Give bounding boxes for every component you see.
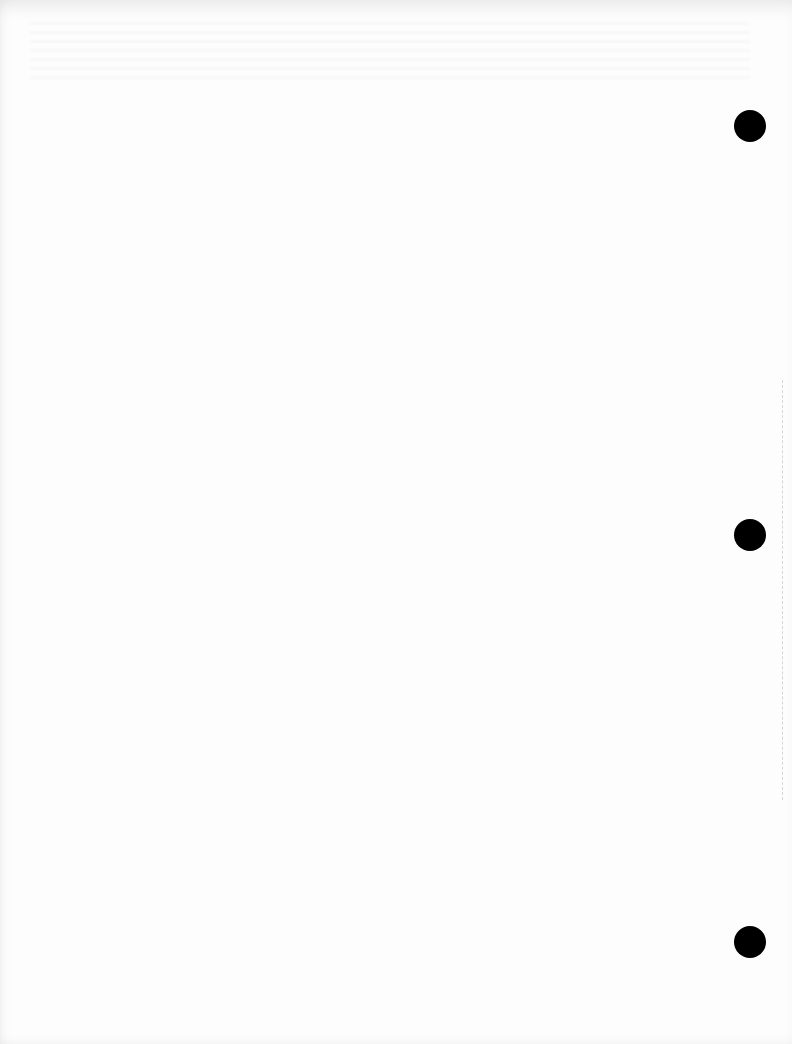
punch-hole-top (734, 110, 766, 142)
scanned-page (0, 0, 792, 1044)
punch-hole-middle (734, 519, 766, 551)
page-edge-line (782, 380, 783, 800)
bleed-through-text (30, 22, 750, 82)
punch-hole-bottom (734, 926, 766, 958)
